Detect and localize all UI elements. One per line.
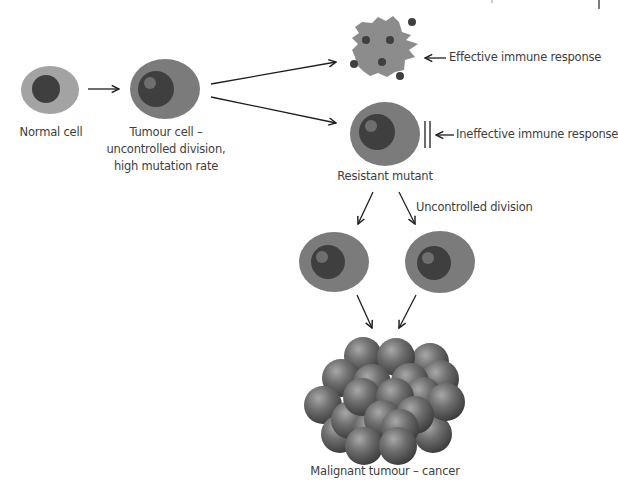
- normal-cell: [21, 66, 79, 114]
- immune-dot: [386, 36, 394, 44]
- immune-dot: [378, 58, 386, 66]
- block-bars-icon: [425, 121, 430, 148]
- label-line: high mutation rate: [107, 158, 226, 175]
- nucleus: [138, 71, 174, 107]
- arrow-right-to-tumour: [399, 295, 416, 328]
- immune-dot: [350, 60, 358, 68]
- nucleolus: [316, 251, 328, 263]
- nucleus: [359, 114, 395, 150]
- malignant-tumour-mass: [304, 337, 465, 465]
- nucleus: [311, 245, 345, 279]
- nucleus: [417, 246, 451, 280]
- arrow-to-destroyed-cell: [211, 62, 336, 84]
- uncontrolled-division-label: Uncontrolled division: [416, 199, 533, 216]
- arrow-to-resistant-mutant: [211, 97, 336, 123]
- malignant-tumour-label: Malignant tumour – cancer: [310, 463, 459, 480]
- daughter-cell-left: [299, 232, 369, 292]
- immune-dot: [396, 72, 404, 80]
- label-line: Tumour cell –: [107, 124, 226, 141]
- arrow-division-right: [399, 192, 415, 224]
- nucleolus: [422, 252, 434, 264]
- immune-dot: [408, 18, 416, 26]
- arrow-division-left: [358, 192, 373, 224]
- nucleolus: [365, 120, 377, 132]
- immune-dot: [362, 36, 370, 44]
- ineffective-immune-response-label: Ineffective immune response: [456, 126, 618, 143]
- normal-cell-label: Normal cell: [20, 124, 83, 141]
- tumour-cell: [130, 59, 200, 119]
- resistant-mutant-cell: [350, 102, 420, 166]
- destroyed-cell: [350, 16, 418, 80]
- tumour-cell-label: Tumour cell – uncontrolled division, hig…: [107, 124, 226, 175]
- nucleus: [32, 75, 60, 103]
- label-line: uncontrolled division,: [107, 141, 226, 158]
- nucleolus: [144, 77, 156, 89]
- effective-immune-response-label: Effective immune response: [449, 49, 601, 66]
- arrow-left-to-tumour: [357, 295, 372, 328]
- page-edge-marks: [492, 0, 599, 9]
- daughter-cell-right: [405, 231, 475, 293]
- resistant-mutant-label: Resistant mutant: [337, 168, 432, 185]
